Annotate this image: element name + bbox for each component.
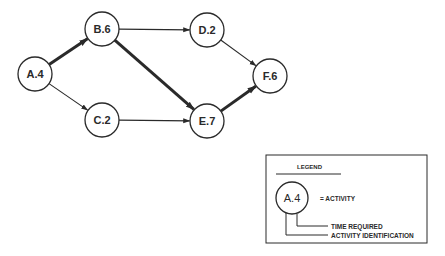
legend-id-label: ACTIVITY IDENTIFICATION	[331, 232, 414, 239]
edge-e-f	[221, 86, 256, 111]
node-label: D.2	[198, 24, 215, 36]
legend-title: LEGEND	[297, 164, 323, 170]
node-label: B.6	[93, 23, 110, 35]
node-c: C.2	[85, 103, 119, 137]
node-a: A.4	[18, 57, 52, 91]
edge-b-e	[115, 40, 194, 109]
legend: LEGEND A.4 = ACTIVITY TIME REQUIRED ACTI…	[266, 155, 427, 243]
node-e: E.7	[190, 104, 224, 138]
node-b: B.6	[85, 12, 119, 46]
node-label: A.4	[26, 68, 44, 80]
edge-c-e	[119, 120, 190, 121]
edge-a-b	[49, 39, 87, 65]
node-f: F.6	[253, 59, 287, 93]
legend-activity-label: = ACTIVITY	[320, 195, 356, 202]
edges-layer	[49, 29, 256, 121]
node-label: F.6	[263, 70, 278, 82]
legend-example-node-label: A.4	[284, 192, 301, 204]
node-d: D.2	[190, 13, 224, 47]
node-label: E.7	[199, 115, 216, 127]
edge-b-d	[119, 29, 190, 30]
node-label: C.2	[93, 114, 110, 126]
edge-a-c	[49, 84, 88, 110]
network-diagram: A.4B.6C.2D.2E.7F.6 LEGEND A.4 = ACTIVITY…	[0, 0, 445, 256]
legend-time-label: TIME REQUIRED	[331, 223, 383, 231]
edge-d-f	[221, 40, 256, 66]
